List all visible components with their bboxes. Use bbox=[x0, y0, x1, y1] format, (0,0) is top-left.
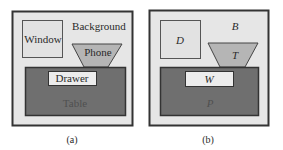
window-label: Window bbox=[24, 33, 61, 45]
drawer-label: Drawer bbox=[56, 72, 89, 84]
drawer-label: W bbox=[204, 73, 214, 85]
panel-a: Background Window Phone Drawer Table (a) bbox=[13, 12, 133, 147]
caption-a: (a) bbox=[66, 134, 77, 146]
segmentation-diagram: Background Window Phone Drawer Table (a)… bbox=[0, 0, 283, 150]
panel-b: B D T W P (b) bbox=[150, 11, 269, 147]
table-label: Table bbox=[63, 97, 87, 109]
phone-label: T bbox=[232, 49, 239, 61]
window-label: D bbox=[175, 34, 184, 46]
caption-b: (b) bbox=[202, 134, 214, 146]
phone-label: Phone bbox=[84, 46, 112, 58]
table-label: P bbox=[206, 97, 214, 109]
background-label: Background bbox=[72, 20, 126, 32]
background-label: B bbox=[232, 20, 239, 32]
